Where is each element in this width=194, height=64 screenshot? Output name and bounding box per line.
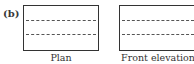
plan-caption: Plan (23, 52, 99, 63)
hidden-line (26, 34, 96, 35)
front-elevation-rectangle (119, 5, 194, 51)
hidden-line (122, 20, 194, 21)
plan-view-rectangle (23, 5, 99, 51)
figure-part-label: (b) (3, 8, 19, 19)
front-elevation-caption: Front elevation (117, 52, 194, 63)
hidden-line (122, 34, 194, 35)
hidden-line (26, 20, 96, 21)
